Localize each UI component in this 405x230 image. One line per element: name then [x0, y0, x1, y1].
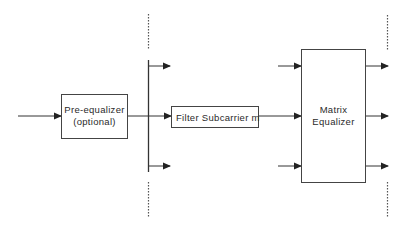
pre-equalizer-label-line1: Pre-equalizer	[64, 104, 124, 115]
block-diagram: Pre-equalizer (optional) Filter Subcarri…	[0, 0, 405, 230]
filter-subcarrier-label: Filter Subcarrier m	[176, 112, 260, 123]
matrix-equalizer-label-line2: Equalizer	[312, 116, 354, 127]
matrix-equalizer-block: Matrix Equalizer	[302, 50, 366, 183]
pre-equalizer-label-line2: (optional)	[73, 116, 116, 127]
matrix-equalizer-label-line1: Matrix	[320, 104, 348, 115]
pre-equalizer-block: Pre-equalizer (optional)	[62, 95, 128, 139]
filter-subcarrier-block: Filter Subcarrier m	[172, 107, 260, 128]
